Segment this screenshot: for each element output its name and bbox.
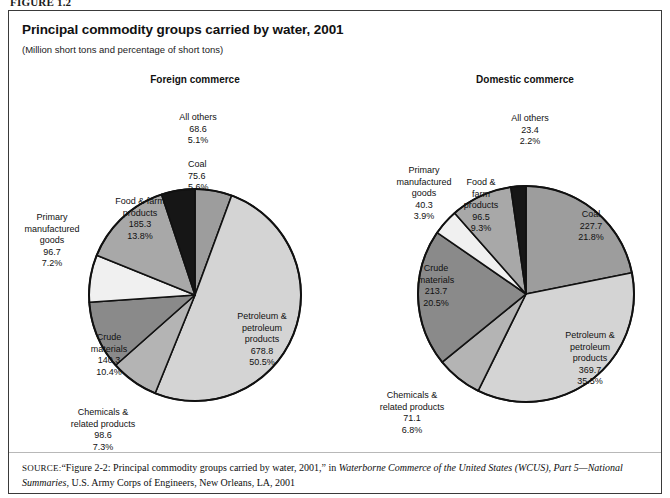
slice-label-foreign-all-others: All others 68.6 5.1% [148,112,248,147]
slice-label-domestic-food-and-farm: Food & farm products 96.5 9.3% [450,177,512,235]
slice-value: 71.1 [356,413,468,425]
slice-percent: 5.6% [188,182,248,194]
slice-percent: 35.5% [540,376,640,388]
page-title: Principal commodity groups carried by wa… [22,22,343,37]
slice-value: 369.7 [540,365,640,377]
slice-percent: 10.4% [74,367,144,379]
slice-name: Petroleum & [212,311,312,323]
slice-value: 23.4 [480,125,580,137]
slice-value: 185.3 [96,219,184,231]
slice-value: 140.3 [74,355,144,367]
slice-name: Food & [450,177,512,189]
slice-label-foreign-food-and-farm: Food & farm products 185.3 13.8% [96,196,184,242]
slice-name-cont: farm [450,189,512,201]
slice-label-foreign-chemicals: Chemicals & related products 98.6 7.3% [48,407,158,453]
source-text-part-1: “Figure 2-2: Principal commodity groups … [61,462,338,473]
slice-value: 96.5 [450,212,512,224]
slice-name-cont: goods [6,235,98,247]
slice-label-domestic-all-others: All others 23.4 2.2% [480,113,580,148]
slice-name-cont: manufactured [6,224,98,236]
slice-name: Coal [556,209,626,221]
source-divider [9,452,661,453]
slice-name-cont: products [540,353,640,365]
slice-name: Chemicals & [48,407,158,419]
slice-label-domestic-coal: Coal 227.7 21.8% [556,209,626,244]
slice-label-domestic-chemicals: Chemicals & related products 71.1 6.8% [356,390,468,436]
slice-percent: 6.8% [356,425,468,437]
slice-label-foreign-crude-materials: Crude materials 140.3 10.4% [74,332,144,378]
slice-name-cont: products [96,208,184,220]
slice-name-cont: related products [48,419,158,431]
slice-percent: 21.8% [556,232,626,244]
slice-name-cont: petroleum [540,342,640,354]
slice-name: Primary [6,212,98,224]
panel-heading-domestic-commerce: Domestic commerce [430,74,620,85]
source-label: SOURCE: [22,463,61,473]
source-note: SOURCE:“Figure 2-2: Principal commodity … [22,461,652,489]
slice-name: Crude [398,263,474,275]
slice-name: Food & farm [96,196,184,208]
slice-name: All others [480,113,580,125]
slice-name: Crude [74,332,144,344]
slice-percent: 13.8% [96,231,184,243]
slice-percent: 5.1% [148,135,248,147]
figure-number-label: FIGURE 1.2 [10,0,71,8]
slice-value: 98.6 [48,430,158,442]
slice-label-foreign-primary-manufactured-goods: Primary manufactured goods 96.7 7.2% [6,212,98,270]
slice-value: 68.6 [148,124,248,136]
slice-label-foreign-petroleum: Petroleum & petroleum products 678.8 50.… [212,311,312,369]
slice-value: 213.7 [398,286,474,298]
slice-value: 678.8 [212,346,312,358]
slice-percent: 20.5% [398,298,474,310]
slice-name-cont: related products [356,402,468,414]
slice-name: Coal [188,159,248,171]
slice-name-cont: products [450,200,512,212]
slice-name-cont: products [212,334,312,346]
slice-percent: 2.2% [480,136,580,148]
slice-percent: 9.3% [450,223,512,235]
slice-label-domestic-petroleum: Petroleum & petroleum products 369.7 35.… [540,330,640,388]
chart-subtitle: (Million short tons and percentage of sh… [22,44,223,55]
slice-value: 96.7 [6,247,98,259]
source-text-part-2: U.S. Army Corps of Engineers, New Orlean… [69,477,295,488]
slice-percent: 7.2% [6,258,98,270]
slice-name-cont: petroleum [212,323,312,335]
slice-value: 227.7 [556,221,626,233]
slice-name-cont: materials [74,344,144,356]
slice-label-foreign-coal: Coal 75.6 5.6% [188,159,248,194]
slice-name: Chemicals & [356,390,468,402]
panel-heading-foreign-commerce: Foreign commerce [100,74,290,85]
slice-percent: 50.5% [212,357,312,369]
slice-name: All others [148,112,248,124]
slice-name: Petroleum & [540,330,640,342]
slice-label-domestic-crude-materials: Crude materials 213.7 20.5% [398,263,474,309]
slice-name-cont: materials [398,275,474,287]
slice-value: 75.6 [188,171,248,183]
slice-name: Primary [376,165,472,177]
